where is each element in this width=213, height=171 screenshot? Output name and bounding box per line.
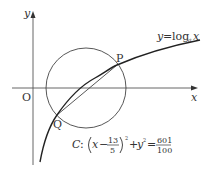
circle-equation: C : x − 13 5 2 + y 2 = 601 100 [72, 135, 172, 155]
diagram-canvas: y x O P Q y = log a x C : x − 13 5 2 + y… [0, 0, 213, 171]
svg-text:2: 2 [125, 135, 128, 141]
y-axis-arrow-icon [31, 11, 36, 18]
svg-text:100: 100 [157, 146, 172, 155]
svg-text:2: 2 [143, 137, 146, 143]
x-axis-arrow-icon [191, 86, 198, 91]
svg-text:601: 601 [157, 136, 172, 145]
svg-text:x: x [193, 30, 200, 43]
svg-text:13: 13 [108, 136, 118, 145]
svg-text:log: log [172, 30, 189, 43]
svg-text:=: = [147, 138, 156, 151]
origin-label: O [22, 91, 31, 104]
y-axis-label: y [23, 7, 31, 20]
point-q-label: Q [53, 118, 62, 131]
curve-label: y = log a x [156, 30, 200, 43]
point-p-label: P [116, 52, 124, 65]
svg-text:x: x [92, 138, 99, 151]
svg-text:a: a [188, 36, 192, 43]
svg-text:−: − [99, 138, 108, 151]
svg-text::: : [80, 138, 84, 151]
svg-text:=: = [163, 30, 172, 43]
svg-text:5: 5 [110, 146, 115, 155]
x-axis-label: x [191, 91, 198, 104]
chord-pq [57, 65, 117, 115]
